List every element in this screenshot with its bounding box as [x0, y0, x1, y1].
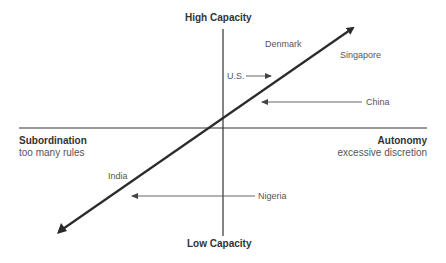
country-label-nigeria: Nigeria — [258, 191, 287, 202]
subordination-label: Subordination too many rules — [19, 135, 87, 159]
country-label-china: China — [366, 97, 390, 108]
autonomy-sublabel: excessive discretion — [338, 147, 427, 159]
country-label-us: U.S. — [227, 71, 245, 82]
subordination-title: Subordination — [19, 135, 87, 146]
autonomy-title: Autonomy — [378, 135, 427, 146]
trend-arrow — [60, 28, 353, 231]
subordination-sublabel: too many rules — [19, 147, 87, 159]
low-capacity-label: Low Capacity — [187, 238, 251, 250]
country-label-denmark: Denmark — [265, 39, 302, 50]
high-capacity-label: High Capacity — [185, 12, 252, 24]
country-label-india: India — [108, 171, 128, 182]
autonomy-label: Autonomy excessive discretion — [338, 135, 427, 159]
country-label-singapore: Singapore — [340, 50, 381, 61]
diagram-canvas — [0, 0, 446, 263]
